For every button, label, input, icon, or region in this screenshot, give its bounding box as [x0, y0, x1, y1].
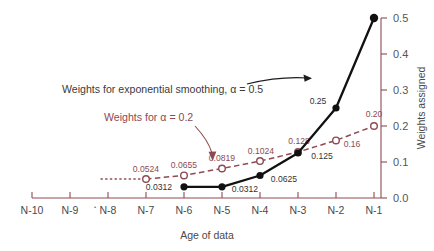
point-label-alpha05-n2: 0.25	[310, 96, 327, 106]
point-label-alpha02-n7: 0.0524	[133, 164, 160, 174]
y-tick-label-0: 0.0	[393, 192, 408, 204]
x-tick-superscript-mark: •	[94, 204, 96, 210]
y-tick-label-1: 0.1	[393, 156, 408, 168]
data-point-alpha05-n3	[294, 149, 301, 156]
x-tick-label-1: N-9	[62, 204, 79, 216]
point-label-alpha05-n3: 0.125	[311, 151, 333, 161]
data-point-alpha02-n6	[181, 172, 188, 179]
x-tick-label-9: N-1	[366, 204, 383, 216]
y-axis-title: Weights assigned	[415, 66, 427, 149]
x-tick-label-0: N-10	[21, 204, 44, 216]
data-point-alpha05-n5	[218, 183, 225, 190]
x-tick-label-3: N-7	[138, 204, 155, 216]
y-tick-label-3: 0.3	[393, 84, 408, 96]
data-point-alpha02-n4	[257, 158, 264, 165]
point-label-alpha02-n6: 0.0655	[171, 160, 198, 170]
data-point-alpha05-n2	[332, 104, 339, 111]
y-tick-label-4: 0.4	[393, 48, 408, 60]
x-tick-label-7: N-3	[290, 204, 307, 216]
data-point-alpha05-n4	[256, 172, 263, 179]
annotation-alpha-02-text: Weights for α = 0.2	[104, 111, 193, 123]
point-label-alpha05-n6: 0.0312	[146, 182, 173, 192]
point-label-alpha05-n4: 0.0625	[271, 174, 298, 184]
annotation-alpha-05-text: Weights for exponential smoothing, α = 0…	[62, 83, 263, 95]
data-point-alpha02-n2	[333, 137, 340, 144]
point-label-alpha02-n2: 0.16	[344, 139, 361, 149]
x-tick-label-5: N-5	[214, 204, 231, 216]
point-label-alpha02-n4: 0.1024	[248, 146, 275, 156]
data-point-alpha02-n1	[371, 123, 378, 130]
data-point-alpha05-n1	[370, 14, 378, 22]
data-point-alpha02-n5	[219, 165, 226, 172]
x-tick-label-2: N-8	[100, 204, 117, 216]
y-tick-label-5: 0.5	[393, 12, 408, 24]
x-axis-title: Age of data	[180, 229, 234, 241]
point-label-alpha05-n5: 0.0312	[232, 184, 259, 194]
point-label-alpha02-n1: 0.20	[366, 109, 383, 119]
x-tick-label-8: N-2	[328, 204, 345, 216]
y-tick-label-2: 0.2	[393, 120, 408, 132]
x-tick-label-6: N-4	[252, 204, 269, 216]
data-point-alpha05-n6	[180, 183, 187, 190]
weights-assigned-chart: N-10 N-9 • N-8 N-7 N-6 N-5 N-4 N-3 N-2 N…	[0, 0, 434, 251]
x-tick-label-4: N-6	[176, 204, 193, 216]
